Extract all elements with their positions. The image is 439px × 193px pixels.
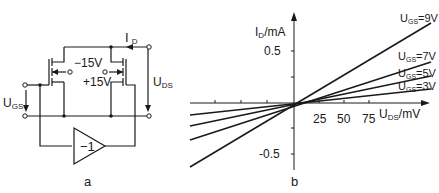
curve-ugs-3v bbox=[190, 89, 431, 115]
chart bbox=[190, 18, 431, 170]
x-tick-25: 25 bbox=[313, 112, 327, 126]
figure: −15V +15V ID UDS UGS −1 a ID/mA 0.5 -0.5 bbox=[0, 0, 439, 193]
neg-supply-label: −15V bbox=[74, 56, 102, 70]
subfigure-label-a: a bbox=[84, 174, 92, 189]
x-tick-50: 50 bbox=[337, 112, 351, 126]
pos-supply-label: +15V bbox=[83, 75, 111, 89]
legend-ugs-7v: UGS=7V bbox=[398, 50, 437, 63]
current-label: ID bbox=[125, 30, 138, 46]
amp-gain-label: −1 bbox=[80, 139, 95, 154]
uds-label: UDS bbox=[153, 75, 173, 90]
ugs-label: UGS bbox=[3, 96, 23, 111]
x-axis-label: UDS/mV bbox=[379, 107, 420, 122]
x-axis-arrow-icon bbox=[421, 100, 430, 106]
legend-ugs-3v: UGS=3V bbox=[398, 80, 437, 93]
y-tick-neg0.5: -0.5 bbox=[259, 147, 280, 161]
y-tick-0.5: 0.5 bbox=[264, 44, 281, 58]
legend-ugs-9v: UGS=9V bbox=[400, 12, 439, 25]
x-tick-75: 75 bbox=[362, 112, 376, 126]
legend-ugs-5v: UGS=5V bbox=[398, 67, 437, 80]
curve-ugs-9v bbox=[190, 23, 431, 167]
y-axis-arrow-icon bbox=[291, 12, 297, 21]
wire bbox=[52, 47, 64, 62]
subfigure-label-b: b bbox=[291, 174, 298, 189]
y-axis-label: ID/mA bbox=[255, 25, 285, 40]
